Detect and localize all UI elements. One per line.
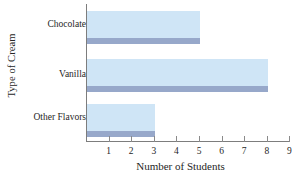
x-axis-tick-label: 1 [101, 146, 117, 156]
x-axis-tick [109, 136, 110, 142]
x-axis-title: Number of Students [0, 160, 301, 172]
bar-vanilla [87, 59, 268, 92]
x-axis-tick-label: 6 [214, 146, 230, 156]
x-axis-tick [222, 136, 223, 142]
x-axis-tick [267, 136, 268, 142]
x-axis-tick [289, 136, 290, 142]
x-axis-line [86, 141, 290, 142]
y-axis-tick-label: Chocolate [0, 19, 86, 29]
x-axis-tick-label: 2 [123, 146, 139, 156]
x-axis-tick [131, 136, 132, 142]
y-axis-tick-label: Vanilla [0, 69, 86, 79]
x-axis-tick-label: 9 [281, 146, 297, 156]
x-axis-tick-label: 4 [168, 146, 184, 156]
x-axis-tick-label: 7 [236, 146, 252, 156]
x-axis-tick-label: 8 [259, 146, 275, 156]
bar-other-flavors [87, 104, 155, 137]
x-axis-tick [199, 136, 200, 142]
bar-chart: Type of Cream Chocolate Vanilla Other Fl… [0, 0, 301, 181]
plot-area [87, 4, 291, 140]
x-axis-tick-label: 5 [191, 146, 207, 156]
x-axis-tick [244, 136, 245, 142]
bar-chocolate [87, 11, 200, 44]
y-axis-tick-label: Other Flavors [0, 112, 86, 122]
x-axis-tick-label: 3 [146, 146, 162, 156]
x-axis-tick [154, 136, 155, 142]
x-axis-tick [176, 136, 177, 142]
